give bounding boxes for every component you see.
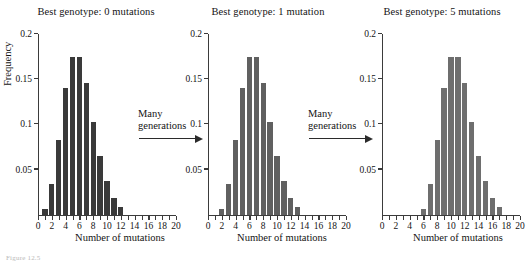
x-axis-tick bbox=[410, 216, 411, 220]
x-axis-tick bbox=[121, 216, 122, 220]
x-axis-tick bbox=[277, 216, 278, 220]
y-axis-tick bbox=[204, 168, 208, 169]
x-axis-tick-label: 6 bbox=[77, 221, 82, 231]
panel-title: Best genotype: 5 mutations bbox=[352, 6, 532, 17]
transition-label-line1: Many bbox=[308, 108, 382, 120]
transition-arrow-0: Many generations bbox=[138, 108, 212, 154]
x-axis-tick bbox=[45, 216, 46, 220]
y-axis bbox=[38, 34, 39, 216]
x-axis-tick bbox=[298, 216, 299, 220]
x-axis-label: Number of mutations bbox=[352, 232, 532, 243]
x-axis-tick bbox=[263, 216, 264, 220]
y-axis-tick-label: 0.2 bbox=[190, 29, 202, 39]
x-axis-tick-label: 12 bbox=[286, 221, 296, 231]
y-axis-tick-label: 0.1 bbox=[20, 119, 32, 129]
x-axis-tick bbox=[169, 216, 170, 220]
x-axis-tick bbox=[492, 216, 493, 220]
histogram-bar bbox=[435, 140, 440, 215]
arrow-head-icon bbox=[195, 135, 203, 143]
x-axis-tick-label: 14 bbox=[130, 221, 140, 231]
x-axis-tick bbox=[73, 216, 74, 220]
x-axis-tick bbox=[59, 216, 60, 220]
x-axis-tick-label: 14 bbox=[474, 221, 484, 231]
x-axis-tick bbox=[128, 216, 129, 220]
x-axis-tick-label: 2 bbox=[393, 221, 398, 231]
x-axis-tick bbox=[479, 216, 480, 220]
x-axis-tick bbox=[208, 216, 209, 220]
histogram-bar bbox=[295, 207, 300, 214]
x-axis-label: Number of mutations bbox=[180, 232, 370, 243]
y-axis-tick-label: 0.05 bbox=[15, 165, 32, 175]
histogram-bar bbox=[441, 88, 446, 214]
histogram-bar bbox=[490, 198, 495, 215]
histogram-bar bbox=[111, 198, 116, 215]
x-axis-tick bbox=[339, 216, 340, 220]
x-axis-tick-label: 20 bbox=[341, 221, 351, 231]
arrow-shaft-icon bbox=[309, 138, 367, 139]
x-axis-tick bbox=[38, 216, 39, 220]
histogram-bar bbox=[455, 57, 460, 215]
y-axis-tick bbox=[34, 168, 38, 169]
panel-title: Best genotype: 0 mutations bbox=[6, 6, 186, 17]
x-axis-tick bbox=[52, 216, 53, 220]
x-axis-tick bbox=[499, 216, 500, 220]
transition-arrow-1: Many generations bbox=[308, 108, 382, 154]
x-axis-tick-label: 0 bbox=[36, 221, 41, 231]
x-axis-tick bbox=[236, 216, 237, 220]
x-axis-tick bbox=[162, 216, 163, 220]
histogram-bar bbox=[63, 88, 68, 214]
y-axis-tick-label: 0.15 bbox=[15, 74, 32, 84]
histogram-bar bbox=[240, 88, 245, 214]
x-axis-tick-label: 0 bbox=[380, 221, 385, 231]
x-axis-tick bbox=[318, 216, 319, 220]
x-axis-tick-label: 8 bbox=[91, 221, 96, 231]
plot-area-2: 0.050.10.150.202468101214161820 bbox=[382, 34, 520, 216]
x-axis-tick-label: 0 bbox=[206, 221, 211, 231]
x-axis-tick-label: 10 bbox=[102, 221, 112, 231]
x-axis-tick-label: 18 bbox=[157, 221, 167, 231]
x-axis-tick-label: 16 bbox=[314, 221, 324, 231]
histogram-bar bbox=[77, 57, 82, 215]
figure-container: Best genotype: 0 mutations 0.050.10.150.… bbox=[0, 0, 532, 267]
y-axis-tick bbox=[378, 33, 382, 34]
histogram-bar bbox=[476, 156, 481, 215]
x-axis-tick-label: 6 bbox=[247, 221, 252, 231]
histogram-bar bbox=[448, 57, 453, 215]
transition-label-line2: generations bbox=[138, 120, 212, 132]
histogram-bar bbox=[247, 57, 252, 215]
x-axis-tick bbox=[100, 216, 101, 220]
x-axis-tick bbox=[458, 216, 459, 220]
histogram-bar bbox=[70, 57, 75, 215]
x-axis-tick bbox=[222, 216, 223, 220]
x-axis-tick-label: 2 bbox=[49, 221, 54, 231]
x-axis-tick bbox=[506, 216, 507, 220]
x-axis-tick bbox=[403, 216, 404, 220]
x-axis-tick bbox=[142, 216, 143, 220]
x-axis-tick-label: 12 bbox=[116, 221, 126, 231]
x-axis-tick bbox=[486, 216, 487, 220]
x-axis-tick bbox=[325, 216, 326, 220]
x-axis-tick bbox=[312, 216, 313, 220]
x-axis-tick-label: 2 bbox=[219, 221, 224, 231]
x-axis-tick bbox=[430, 216, 431, 220]
x-axis-tick bbox=[305, 216, 306, 220]
histogram-bar bbox=[56, 140, 61, 215]
arrow-head-icon bbox=[365, 135, 373, 143]
y-axis-tick bbox=[34, 123, 38, 124]
y-axis-tick-label: 0.05 bbox=[359, 165, 376, 175]
x-axis-tick bbox=[465, 216, 466, 220]
histogram-bar bbox=[469, 122, 474, 215]
x-axis-tick bbox=[382, 216, 383, 220]
histogram-bar bbox=[97, 156, 102, 215]
x-axis-tick-label: 4 bbox=[407, 221, 412, 231]
x-axis-tick bbox=[249, 216, 250, 220]
histogram-bar bbox=[49, 184, 54, 215]
x-axis-tick bbox=[155, 216, 156, 220]
x-axis-tick bbox=[243, 216, 244, 220]
x-axis-tick bbox=[513, 216, 514, 220]
x-axis-tick bbox=[520, 216, 521, 220]
y-axis-tick-label: 0.15 bbox=[185, 74, 202, 84]
x-axis-tick-label: 14 bbox=[300, 221, 310, 231]
x-axis-tick bbox=[346, 216, 347, 220]
x-axis-tick-label: 10 bbox=[446, 221, 456, 231]
